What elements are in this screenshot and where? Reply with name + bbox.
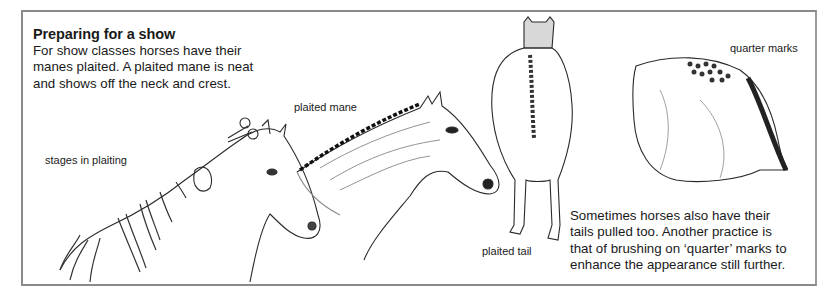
intro-line: and shows off the neck and crest. (33, 76, 293, 92)
horse-rear-plaited-tail (492, 17, 573, 240)
note-paragraph: Sometimes horses also have their tails p… (570, 208, 787, 274)
note-line: enhance the appearance still further. (570, 257, 787, 273)
caption-plaited-tail: plaited tail (482, 245, 532, 257)
note-line: that of brushing on ‘quarter’ marks to (570, 241, 787, 257)
intro-line: manes plaited. A plaited mane is neat (33, 59, 293, 75)
caption-stages-in-plaiting: stages in plaiting (45, 154, 127, 166)
intro-line: For show classes horses have their (33, 43, 293, 59)
horse-head-plaiting-stages (60, 118, 320, 282)
caption-plaited-mane: plaited mane (294, 101, 357, 113)
section-heading: Preparing for a show (33, 26, 175, 42)
intro-paragraph: For show classes horses have their manes… (33, 43, 293, 92)
horse-head-plaited-mane (297, 92, 499, 260)
note-line: Sometimes horses also have their (570, 208, 787, 224)
caption-quarter-marks: quarter marks (730, 42, 798, 54)
note-line: tails pulled too. Another practice is (570, 224, 787, 240)
horse-hindquarter-quarter-marks (633, 58, 788, 182)
